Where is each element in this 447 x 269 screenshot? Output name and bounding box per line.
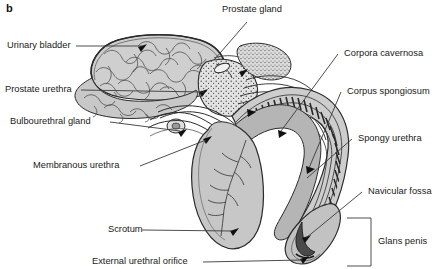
label-scrotum: Scrotum (108, 224, 143, 235)
glans-penis-structure (285, 204, 340, 264)
label-external-urethral-orifice: External urethral orifice (92, 256, 188, 267)
label-corpus-spongiosum: Corpus spongiosum (347, 86, 430, 97)
label-spongy-urethra: Spongy urethra (358, 133, 422, 144)
pelvic-floor-muscle (238, 76, 330, 140)
urethra-channel (158, 106, 244, 140)
corpora-cavernosa-structure (232, 88, 349, 252)
label-corpora-cavernosa: Corpora cavernosa (344, 48, 423, 59)
label-prostate-urethra: Prostate urethra (5, 84, 72, 95)
seminal-vesicle-structure (237, 43, 291, 80)
panel-letter: b (6, 2, 13, 14)
label-navicular-fossa: Navicular fossa (368, 186, 432, 197)
anatomy-figure: b (0, 0, 447, 269)
label-glans-penis: Glans penis (378, 236, 427, 247)
urinary-bladder-structure (75, 35, 226, 123)
label-bulbourethral-gland: Bulbourethral gland (10, 116, 91, 127)
bulbourethral-gland-structure (148, 113, 228, 152)
label-membranous-urethra: Membranous urethra (33, 160, 119, 171)
prostate-gland-structure (198, 56, 262, 116)
label-prostate-gland: Prostate gland (222, 4, 282, 15)
corpus-spongiosum-structure (232, 105, 321, 240)
label-urinary-bladder: Urinary bladder (7, 40, 71, 51)
pointer-arrowheads (138, 44, 315, 264)
scrotum-structure (192, 122, 264, 249)
